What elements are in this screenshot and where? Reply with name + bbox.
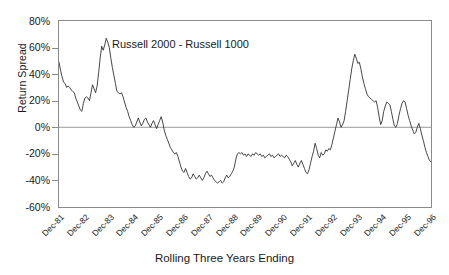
y-tick-mark: [52, 101, 58, 102]
y-tick-mark: [52, 48, 58, 49]
y-tick-label: 80%: [8, 16, 50, 27]
y-tick-mark: [52, 74, 58, 75]
y-tick-mark: [52, 154, 58, 155]
series-annotation: Russell 2000 - Russell 1000: [112, 38, 249, 50]
y-tick-mark: [52, 127, 58, 128]
y-tick-label: 20%: [8, 95, 50, 106]
return-spread-line: [59, 38, 431, 183]
y-tick-label: -40%: [8, 175, 50, 186]
y-tick-label: -60%: [8, 202, 50, 213]
x-axis-title: Rolling Three Years Ending: [0, 252, 449, 264]
x-axis-tick-labels: Dec-81Dec-82Dec-83Dec-84Dec-85Dec-86Dec-…: [58, 208, 432, 252]
y-tick-label: -20%: [8, 148, 50, 159]
y-tick-mark: [52, 180, 58, 181]
y-tick-label: 40%: [8, 69, 50, 80]
y-tick-label: 0%: [8, 122, 50, 133]
chart-figure: Return Spread 80%60%40%20%0%-20%-40%-60%…: [0, 0, 449, 275]
y-tick-label: 60%: [8, 42, 50, 53]
